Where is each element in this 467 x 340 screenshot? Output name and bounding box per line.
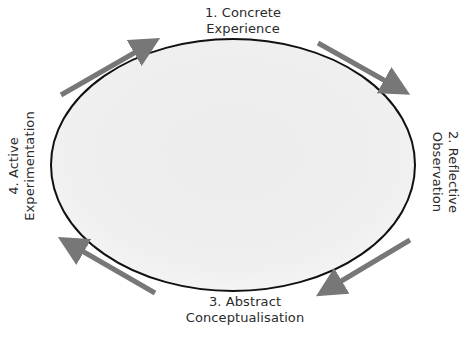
- stage-label-line: 1. Concrete: [188, 5, 298, 21]
- stage-label-line: Observation: [429, 102, 445, 242]
- stage-label-line: Experience: [188, 21, 298, 37]
- stage-label-concrete-experience: 1. Concrete Experience: [188, 5, 298, 37]
- stage-label-line: 2. Reflective: [445, 102, 461, 242]
- stage-label-active-experimentation: 4. Active Experimentation: [6, 96, 38, 236]
- cycle-ellipse: [51, 39, 415, 291]
- stage-label-line: Conceptualisation: [170, 310, 320, 326]
- learning-cycle-diagram: [0, 0, 467, 340]
- stage-label-reflective-observation: 2. Reflective Observation: [429, 102, 461, 242]
- stage-label-line: 4. Active: [6, 96, 22, 236]
- stage-label-line: Experimentation: [22, 96, 38, 236]
- stage-label-abstract-conceptualisation: 3. Abstract Conceptualisation: [170, 294, 320, 326]
- stage-label-line: 3. Abstract: [170, 294, 320, 310]
